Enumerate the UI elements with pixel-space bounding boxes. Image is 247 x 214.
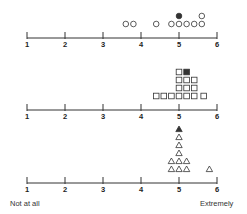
open-circle-marker [199,21,205,27]
open-circle-marker [123,21,129,27]
tick-label: 2 [63,112,67,121]
open-triangle-marker [206,166,212,172]
tick-label: 3 [101,112,105,121]
tick-label: 1 [25,112,29,121]
tick-label: 1 [25,40,29,49]
filled-triangle-marker [176,126,182,132]
tick-label: 6 [215,185,219,194]
filled-circle-marker [176,13,182,19]
open-square-marker [169,93,175,99]
tick-label: 2 [63,185,67,194]
open-triangle-marker [176,142,182,148]
open-square-marker [184,85,190,91]
open-circle-marker [191,21,197,27]
points-group [123,13,213,171]
tick-label: 2 [63,40,67,49]
open-triangle-marker [176,166,182,172]
tick-label: 4 [139,112,144,121]
open-triangle-marker [168,166,174,172]
open-triangle-marker [183,158,189,164]
tick-label: 4 [139,40,144,49]
open-circle-marker [199,13,205,19]
tick-label: 6 [215,40,219,49]
open-square-marker [176,69,182,75]
open-triangle-marker [176,150,182,156]
tick-label: 5 [177,40,181,49]
open-square-marker [176,93,182,99]
open-square-marker [176,77,182,83]
open-square-marker [201,93,207,99]
open-square-marker [191,77,197,83]
low-end-label: Not at all [10,199,40,208]
open-circle-marker [153,21,159,27]
open-square-marker [191,93,197,99]
tick-label: 5 [177,112,181,121]
open-square-marker [161,93,167,99]
open-triangle-marker [183,166,189,172]
open-circle-marker [184,21,190,27]
tick-label: 6 [215,112,219,121]
filled-square-marker [184,69,190,75]
tick-label: 1 [25,185,29,194]
tick-label: 4 [139,185,144,194]
tick-label: 5 [177,185,181,194]
tick-label: 3 [101,185,105,194]
open-triangle-marker [176,134,182,140]
open-circle-marker [176,21,182,27]
open-triangle-marker [176,158,182,164]
open-triangle-marker [168,158,174,164]
open-circle-marker [131,21,137,27]
dot-plot-chart: 123456123456123456 Not at all Extremely [0,0,247,214]
high-end-label: Extremely [200,199,234,208]
tick-label: 3 [101,40,105,49]
open-circle-marker [169,21,175,27]
open-square-marker [184,93,190,99]
axes-group: 123456123456123456 [25,32,219,194]
open-square-marker [176,85,182,91]
open-square-marker [153,93,159,99]
open-square-marker [191,85,197,91]
open-square-marker [184,77,190,83]
